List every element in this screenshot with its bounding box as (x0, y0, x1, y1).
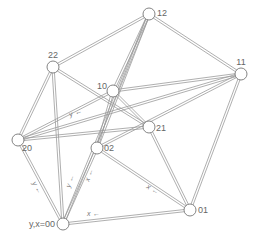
edge-20-21 (18, 126, 149, 141)
edge-12-11 (148, 13, 241, 75)
node-01: 01 (184, 204, 208, 216)
edge-label-x: x← (83, 168, 94, 184)
node-label: 02 (104, 143, 114, 153)
node-11: 11 (235, 57, 247, 80)
edge-11-01 (189, 74, 242, 211)
node-label: 12 (157, 8, 167, 18)
edge-label-y: y← (64, 174, 76, 190)
edge-22-21 (52, 66, 149, 128)
edge-22-00 (52, 67, 64, 224)
node-label: 22 (48, 50, 58, 60)
node-label: 01 (198, 205, 208, 215)
node-20: 20 (12, 134, 32, 153)
node-label: 11 (236, 57, 245, 67)
arrow-icon: ← (85, 168, 94, 177)
edge-label-x: x← (86, 210, 100, 217)
edge-02-01 (96, 147, 190, 211)
node-22: 22 (47, 50, 59, 73)
arrow-icon: ← (93, 210, 100, 217)
node-label: 10 (97, 81, 107, 91)
edge-label-x: x← (145, 182, 161, 195)
node-label: 21 (156, 123, 166, 133)
svg-text:x: x (83, 176, 91, 183)
node-21: 21 (143, 121, 166, 133)
svg-text:x: x (86, 210, 91, 217)
arrow-icon: ← (66, 174, 75, 183)
arrow-icon: ← (34, 185, 44, 195)
node-label: 20 (22, 143, 32, 153)
node-label: y,x=00 (29, 219, 55, 229)
edge-00-01 (63, 209, 190, 225)
edge-11-20 (18, 73, 242, 141)
arrow-icon: ← (151, 186, 161, 196)
node-00: y,x=00 (29, 218, 69, 230)
graph-diagram: y←y←x←x←x←y← y,x=000102101112202122 (0, 0, 255, 237)
edges-group (17, 13, 242, 225)
node-12: 12 (143, 8, 167, 20)
edge-label-y: y← (67, 107, 83, 119)
